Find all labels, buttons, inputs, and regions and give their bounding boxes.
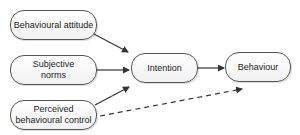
node-intention: Intention [131, 53, 198, 83]
node-label: Perceived behavioural control [11, 104, 96, 126]
node-label: Behavioural attitude [14, 20, 94, 31]
node-behaviour: Behaviour [225, 52, 291, 82]
node-perceived-behavioural-control: Perceived behavioural control [10, 100, 97, 130]
edge-attitude-intention [92, 33, 128, 52]
edge-control-intention [95, 87, 129, 105]
edge-control-behaviour-dashed [100, 89, 242, 116]
node-label: Subjective norms [24, 59, 84, 81]
node-behavioural-attitude: Behavioural attitude [10, 10, 97, 40]
node-label: Intention [147, 63, 182, 74]
node-label: Behaviour [238, 62, 279, 73]
node-subjective-norms: Subjective norms [10, 55, 97, 85]
